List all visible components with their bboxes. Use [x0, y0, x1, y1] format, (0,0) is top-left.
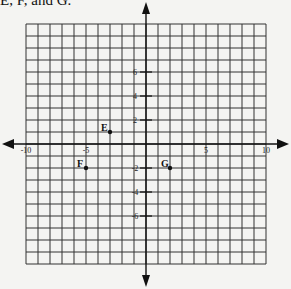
coordinate-plane: -10-5510642-2-4-6EFG — [0, 0, 291, 289]
x-axis-right-arrow-icon — [277, 139, 289, 149]
point-e — [108, 130, 112, 134]
y-tick-label: -4 — [132, 188, 139, 197]
y-axis-up-arrow-icon — [142, 2, 150, 14]
y-tick-label: 4 — [133, 92, 137, 101]
y-tick-label: -2 — [132, 164, 139, 173]
point-f — [84, 166, 88, 170]
y-tick-label: 6 — [133, 68, 137, 77]
x-axis-left-arrow-icon — [2, 139, 14, 149]
y-tick-label: 2 — [133, 116, 137, 125]
point-label-e: E — [101, 122, 108, 133]
point-label-f: F — [77, 158, 83, 169]
y-axis-down-arrow-icon — [142, 275, 150, 287]
x-tick-label: 5 — [204, 146, 208, 155]
point-label-g: G — [161, 158, 169, 169]
x-tick-label: 10 — [262, 146, 270, 155]
x-tick-label: -5 — [83, 146, 90, 155]
y-tick-label: -6 — [132, 212, 139, 221]
x-tick-label: -10 — [21, 146, 32, 155]
